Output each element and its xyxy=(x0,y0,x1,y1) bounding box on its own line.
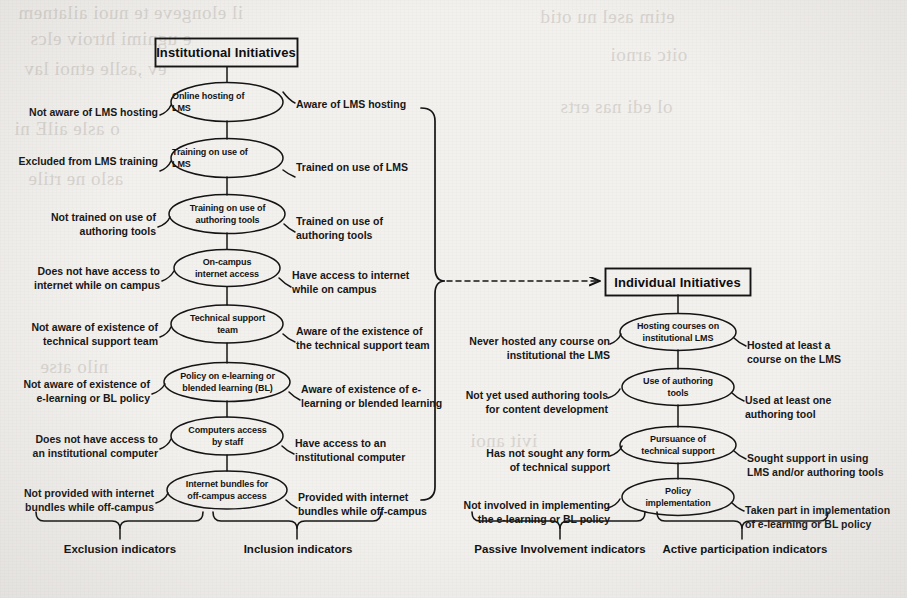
active-label-3: Sought support in using LMS and/or autho… xyxy=(747,452,899,479)
node-label-oncampus-internet: On-campus internet access xyxy=(172,257,282,280)
active-label-4: Taken part in implementation of e-learni… xyxy=(745,504,905,531)
leader-left xyxy=(160,105,171,115)
inclusion-label-8: Provided with internet bundles while off… xyxy=(298,491,448,518)
leader-right xyxy=(286,500,297,508)
inclusion-label-2: Trained on use of LMS xyxy=(296,161,446,175)
inclusion-label-1: Aware of LMS hosting xyxy=(296,98,446,112)
exclusion-label-8: Not provided with internet bundles while… xyxy=(0,487,154,514)
inclusion-label-5: Aware of the existence of the technical … xyxy=(296,325,441,352)
passive-label-1: Never hosted any course on institutional… xyxy=(448,335,610,362)
node-label-policy-implementation: Policy implementation xyxy=(622,486,734,509)
exclusion-label-5: Not aware of existence of technical supp… xyxy=(0,321,158,348)
exclusion-label-3: Not trained on use of authoring tools xyxy=(0,211,156,238)
node-label-online-hosting: Online hosting of LMS xyxy=(172,91,282,114)
node-label-computers-access: Computers access by staff xyxy=(170,425,285,448)
passive-indicators-label: Passive Involvement indicators xyxy=(470,543,650,555)
passive-label-2: Not yet used authoring tools for content… xyxy=(448,389,608,416)
exclusion-label-1: Not aware of LMS hosting xyxy=(0,106,158,120)
node-label-policy: Policy on e-learning or blended learning… xyxy=(165,371,290,394)
exclusion-label-4: Does not have access to internet while o… xyxy=(0,265,160,292)
passive-label-4: Not involved in implementing the e-learn… xyxy=(448,499,610,526)
active-label-2: Used at least one authoring tool xyxy=(745,394,880,421)
leader-right xyxy=(289,392,300,400)
exclusion-label-2: Excluded from LMS training xyxy=(0,155,158,169)
leader-right xyxy=(734,451,746,459)
node-label-hosting-courses: Hosting courses on institutional LMS xyxy=(622,321,734,344)
inclusion-label-3: Trained on use of authoring tools xyxy=(296,215,426,242)
node-label-use-authoring: Use of authoring tools xyxy=(622,376,734,399)
leader-left xyxy=(160,161,171,171)
active-indicators-label: Active participation indicators xyxy=(655,543,835,555)
leader-left xyxy=(152,384,165,394)
inclusion-label-4: Have access to internet while on campus xyxy=(292,269,432,296)
institutional-title: Institutional Initiatives xyxy=(155,45,297,60)
passive-label-3: Has not sought any form of technical sup… xyxy=(470,447,610,474)
inclusion-label-6: Aware of existence of e- learning or ble… xyxy=(301,383,444,410)
node-label-pursuance-support: Pursuance of technical support xyxy=(622,434,734,457)
figure-canvas: il elongeve te nuoi ailatnem e ugnimi ht… xyxy=(0,0,907,598)
leader-right xyxy=(284,224,295,232)
leader-left xyxy=(158,217,170,227)
node-label-internet-bundles: Internet bundles for off-campus access xyxy=(167,479,287,502)
leader-left xyxy=(610,334,621,344)
node-label-training-lms: Training on use of LMS xyxy=(172,147,282,170)
active-label-1: Hosted at least a course on the LMS xyxy=(747,339,887,366)
node-label-training-authoring: Training on use of authoring tools xyxy=(170,203,285,226)
leader-left xyxy=(608,389,620,398)
individual-title: Individual Initiatives xyxy=(605,275,750,290)
exclusion-label-7: Does not have access to an institutional… xyxy=(0,433,158,460)
node-label-technical-support: Technical support team xyxy=(170,313,285,336)
exclusion-brace xyxy=(36,512,203,529)
exclusion-indicators-label: Exclusion indicators xyxy=(40,543,200,555)
exclusion-label-6: Not aware of existence of e-learning or … xyxy=(0,378,150,405)
leader-right xyxy=(283,170,295,177)
leader-right xyxy=(283,92,295,103)
leader-right xyxy=(734,338,746,346)
inclusion-label-7: Have access to an institutional computer xyxy=(295,437,430,464)
inclusion-indicators-label: Inclusion indicators xyxy=(218,543,378,555)
